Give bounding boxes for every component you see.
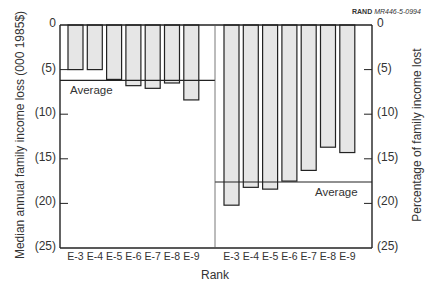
left-tick-label: (20) <box>22 194 56 208</box>
bar-right-E-9 <box>340 25 355 153</box>
left-tick-label: (5) <box>22 61 56 75</box>
bar-left-E-3 <box>68 25 83 70</box>
x-axis-title: Rank <box>200 268 230 282</box>
left-tick-label: 0 <box>22 16 56 30</box>
right-tick-label: (20) <box>377 194 398 208</box>
right-tick-label: (5) <box>377 61 392 75</box>
bar-right-E-8 <box>321 25 336 147</box>
bar-left-E-7 <box>145 25 160 88</box>
right-tick-label: (10) <box>377 105 398 119</box>
bar-left-E-5 <box>107 25 122 79</box>
bar-right-E-3 <box>224 25 239 205</box>
right-tick-label: (25) <box>377 239 398 253</box>
bar-left-E-9 <box>184 25 199 100</box>
bar-left-E-6 <box>126 25 141 86</box>
bar-chart: AverageAverage <box>0 0 430 291</box>
right-y-axis-title: Percentage of family income lost <box>410 35 424 235</box>
right-tick-label: (15) <box>377 150 398 164</box>
bar-left-E-4 <box>87 25 102 70</box>
right-tick-label: 0 <box>377 16 384 30</box>
bar-right-E-4 <box>243 25 258 187</box>
average-label-right: Average <box>315 186 358 198</box>
bar-right-E-7 <box>301 25 316 170</box>
average-label-left: Average <box>70 84 113 96</box>
bar-right-E-5 <box>263 25 278 189</box>
left-tick-label: (10) <box>22 105 56 119</box>
left-y-axis-title: Median annual family income loss (000 19… <box>13 5 27 265</box>
x-category-label: E-9 <box>332 250 362 262</box>
bar-left-E-8 <box>165 25 180 83</box>
x-category-label: E-9 <box>176 250 206 262</box>
left-tick-label: (25) <box>22 239 56 253</box>
left-tick-label: (15) <box>22 150 56 164</box>
bar-right-E-6 <box>282 25 297 181</box>
